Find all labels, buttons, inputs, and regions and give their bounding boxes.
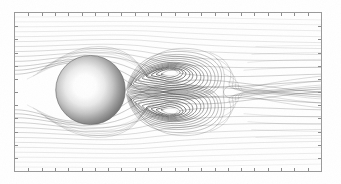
upper-vortex-core xyxy=(161,70,181,77)
flow-visualization-figure xyxy=(0,0,341,184)
cylinder-body xyxy=(56,55,126,124)
lower-vortex-core xyxy=(161,107,181,114)
plot-frame xyxy=(14,12,322,172)
streamline-plot-canvas xyxy=(15,13,321,171)
